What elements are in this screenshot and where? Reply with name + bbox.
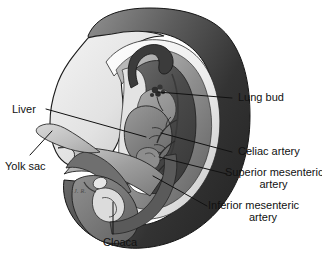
label-inferior-mesenteric-line1: Inferior mesenteric bbox=[208, 199, 318, 211]
label-superior-mesenteric-line1: Superior mesenteric bbox=[225, 166, 322, 178]
artist-signature: J. R. bbox=[74, 188, 86, 194]
label-lung-bud: Lung bud bbox=[238, 91, 284, 103]
label-superior-mesenteric-artery: Superior mesenteric artery bbox=[225, 166, 322, 190]
label-cloaca: Cloaca bbox=[103, 236, 137, 248]
label-liver: Liver bbox=[12, 103, 36, 115]
label-superior-mesenteric-line2: artery bbox=[225, 178, 322, 190]
label-celiac-artery: Celiac artery bbox=[238, 145, 300, 157]
figure-root: Lung bud Celiac artery Superior mesenter… bbox=[0, 0, 322, 262]
label-inferior-mesenteric-line2: artery bbox=[208, 211, 318, 223]
label-yolk-sac: Yolk sac bbox=[5, 160, 46, 172]
label-inferior-mesenteric-artery: Inferior mesenteric artery bbox=[208, 199, 318, 223]
